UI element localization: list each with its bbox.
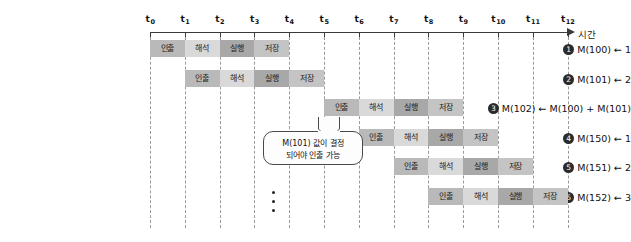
stage-cell-실행: 실행 [428,129,463,146]
stage-cell-해석: 해석 [359,99,394,116]
instruction-label-2: 2M(101) ← 2 [486,73,631,85]
callout-line-2: 되어야 인출 가능 [269,150,357,162]
instruction-expression: M(101) ← 2 [577,74,631,85]
axis-tick-label: t0 [132,14,168,24]
callout-tail-icon [318,117,340,133]
stage-cell-저장: 저장 [498,158,533,175]
grid-line [254,37,255,228]
grid-line [150,37,151,228]
ellipsis-dots [272,191,275,218]
axis-tick-label: t1 [167,14,203,24]
stage-cell-해석: 해석 [463,188,498,205]
stage-cell-해석: 해석 [428,158,463,175]
axis-tick-label: t9 [445,14,481,24]
stage-cell-실행: 실행 [254,70,289,87]
time-axis-caption: 시간 [578,27,596,41]
ellipsis-dot [272,200,275,203]
stage-cell-해석: 해석 [394,129,429,146]
stage-cell-실행: 실행 [463,158,498,175]
stage-cell-인출: 인출 [150,40,185,57]
instruction-expression: M(151) ← 2 [577,162,631,173]
stage-cell-인출: 인출 [428,188,463,205]
ellipsis-dot [272,209,275,212]
stage-cell-실행: 실행 [394,99,429,116]
axis-tick-label: t11 [515,14,551,24]
stage-cell-인출: 인출 [359,129,394,146]
instruction-label-4: 4M(150) ← 1 [486,132,631,144]
stage-cell-해석: 해석 [185,40,220,57]
grid-line [220,37,221,228]
stage-cell-인출: 인출 [394,158,429,175]
instruction-label-3: 3M(102) ← M(100) + M(101) [486,102,631,114]
instruction-number-badge: 5 [563,162,574,173]
instruction-expression: M(100) ← 1 [577,44,631,55]
axis-tick-label: t4 [271,14,307,24]
instruction-number-badge: 2 [563,74,574,85]
instruction-number-badge: 1 [563,44,574,55]
stage-cell-저장: 저장 [289,70,324,87]
stage-cell-저장: 저장 [533,188,568,205]
axis-tick-label: t2 [202,14,238,24]
axis-tick-label: t5 [306,14,342,24]
callout-line-1: M(101) 값이 결정 [269,138,357,150]
stage-cell-해석: 해석 [220,70,255,87]
instruction-number-badge: 3 [488,103,499,114]
pipeline-timing-diagram: 시간 t0t1t2t3t4t5t6t7t8t9t10t11t12 1M(100)… [0,0,631,242]
stage-cell-인출: 인출 [324,99,359,116]
axis-tick-label: t7 [376,14,412,24]
instruction-expression: M(150) ← 1 [577,133,631,144]
stage-cell-인출: 인출 [185,70,220,87]
axis-tick-label: t8 [410,14,446,24]
stage-cell-실행: 실행 [220,40,255,57]
axis-tick-label: t6 [341,14,377,24]
stage-cell-실행: 실행 [498,188,533,205]
ellipsis-dot [272,191,275,194]
axis-tick-label: t10 [480,14,516,24]
callout-bubble: M(101) 값이 결정 되어야 인출 가능 [263,131,363,165]
stage-cell-저장: 저장 [254,40,289,57]
axis-tick-label: t3 [236,14,272,24]
instruction-expression: M(152) ← 3 [577,192,631,203]
instruction-label-1: 1M(100) ← 1 [486,43,631,55]
instruction-expression: M(102) ← M(100) + M(101) [502,103,631,114]
axis-tick-label: t12 [550,14,586,24]
grid-line [185,37,186,228]
stage-cell-저장: 저장 [463,129,498,146]
instruction-number-badge: 4 [563,133,574,144]
stage-cell-저장: 저장 [428,99,463,116]
